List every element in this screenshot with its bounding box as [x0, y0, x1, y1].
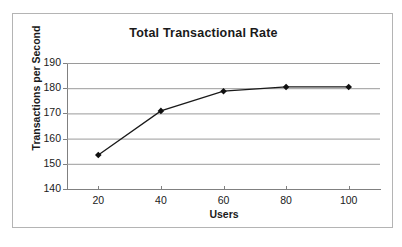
- chart-title: Total Transactional Rate: [13, 26, 393, 40]
- x-axis-tick-label: 40: [144, 194, 178, 206]
- gridlines: [67, 64, 380, 190]
- data-point-markers: [95, 84, 352, 159]
- y-axis-tick-label: 170: [27, 106, 61, 118]
- chart-container: Total Transactional Rate Transactions pe…: [12, 13, 393, 228]
- data-point-marker: [283, 84, 290, 91]
- y-axis-tick-label: 150: [27, 157, 61, 169]
- y-axis-tick-mark: [63, 189, 67, 190]
- x-axis-tick-label: 80: [269, 194, 303, 206]
- data-point-marker: [345, 84, 352, 91]
- x-axis-tick-label: 60: [207, 194, 241, 206]
- x-axis-tick-label: 100: [332, 194, 366, 206]
- y-axis-tick-label: 180: [27, 81, 61, 93]
- y-axis-tick-label: 190: [27, 56, 61, 68]
- y-axis-tick-label: 140: [27, 182, 61, 194]
- line-chart-svg: [67, 63, 380, 189]
- data-series-line: [98, 87, 348, 155]
- x-axis-tick-label: 20: [81, 194, 115, 206]
- x-axis-title: Users: [67, 208, 381, 220]
- y-axis-tick-label: 160: [27, 132, 61, 144]
- plot-area: [67, 63, 380, 189]
